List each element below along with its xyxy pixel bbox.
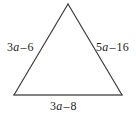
right-operator: – (108, 40, 116, 54)
right-constant: 16 (117, 40, 129, 54)
left-side-label: 3a–6 (7, 41, 34, 53)
bottom-constant: 8 (71, 99, 77, 113)
right-side-label: 5a–16 (96, 41, 129, 53)
bottom-operator: – (62, 99, 70, 113)
left-operator: – (19, 40, 27, 54)
left-constant: 6 (28, 40, 34, 54)
geometry-figure: 3a–6 5a–16 3a–8 (0, 0, 136, 117)
bottom-side-label: 3a–8 (50, 100, 77, 112)
